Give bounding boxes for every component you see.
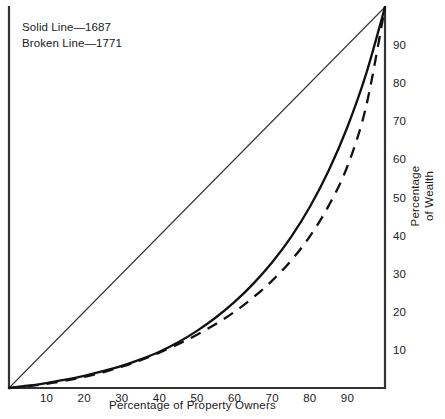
x-axis-title: Percentage of Property Owners	[0, 399, 385, 411]
y-tick-label: 10	[393, 344, 406, 356]
y-tick-label: 80	[393, 77, 406, 89]
y-tick-label: 20	[393, 306, 406, 318]
y-tick-label: 90	[393, 39, 406, 51]
y-tick-label: 70	[393, 115, 406, 127]
legend: Solid Line—1687 Broken Line—1771	[22, 20, 122, 51]
y-axis-title: Percentage of Wealth	[409, 166, 436, 227]
plot-canvas	[0, 0, 445, 419]
legend-entry-broken-1771: Broken Line—1771	[22, 36, 122, 52]
legend-entry-solid-1687: Solid Line—1687	[22, 20, 122, 36]
y-axis-title-line-2: of Wealth	[423, 166, 437, 227]
y-tick-label: 30	[393, 268, 406, 280]
y-tick-label: 50	[393, 192, 406, 204]
series-layer	[9, 7, 385, 388]
y-axis-title-line-1: Percentage	[409, 166, 423, 227]
lorenz-curve-figure: Solid Line—1687 Broken Line—1771 1020304…	[0, 0, 445, 419]
y-tick-label: 40	[393, 230, 406, 242]
y-tick-label: 60	[393, 153, 406, 165]
